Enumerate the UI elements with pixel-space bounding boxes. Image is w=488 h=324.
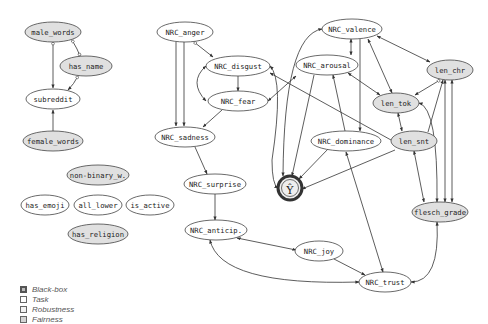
svg-text:has_emoji: has_emoji [26,201,65,210]
node-has-name[interactable]: has_name [60,56,112,76]
node-all-lower[interactable]: all_lower [74,195,122,215]
node-nrc-surprise[interactable]: NRC_surprise [184,174,246,194]
nodes: male_words has_name subreddit female_wor… [21,19,473,292]
svg-text:is_active: is_active [131,201,170,210]
svg-text:NRC_dominance: NRC_dominance [318,137,374,146]
node-y-hat-blackbox[interactable]: Ŷ [278,176,302,200]
node-has-religion[interactable]: has_religion [68,224,128,244]
svg-text:NRC_anticip.: NRC_anticip. [190,226,242,235]
svg-text:len_tok: len_tok [381,99,412,108]
node-subreddit[interactable]: subreddit [26,89,80,109]
node-nrc-fear[interactable]: NRC_fear [208,91,268,111]
node-len-tok[interactable]: len_tok [373,93,419,113]
node-female-words[interactable]: female_words [23,131,83,151]
node-is-active[interactable]: is_active [126,195,174,215]
svg-text:has_name: has_name [69,62,104,71]
legend-item-task: Task [20,294,74,304]
svg-text:len_snt: len_snt [399,137,429,146]
black-box-swatch-icon [20,286,27,293]
node-has-emoji[interactable]: has_emoji [21,195,69,215]
svg-text:NRC_arousal: NRC_arousal [303,61,351,70]
svg-text:len_chr: len_chr [435,66,466,75]
node-nrc-valence[interactable]: NRC_valence [322,19,382,39]
node-non-binary-words[interactable]: non-binary_w. [67,165,129,185]
node-flesch-grade[interactable]: flesch_grade [412,202,468,222]
node-len-snt[interactable]: len_snt [391,131,437,151]
robustness-swatch-icon [20,306,27,313]
svg-text:all_lower: all_lower [79,201,119,210]
svg-text:NRC_disgust: NRC_disgust [214,62,262,71]
svg-text:non-binary_w.: non-binary_w. [70,171,126,180]
svg-text:female_words: female_words [27,137,79,146]
svg-text:NRC_valence: NRC_valence [328,25,376,34]
node-len-chr[interactable]: len_chr [427,60,473,80]
node-nrc-anticipation[interactable]: NRC_anticip. [185,220,247,240]
svg-text:subreddit: subreddit [34,95,73,104]
svg-text:NRC_fear: NRC_fear [221,97,256,106]
svg-text:NRC_trust: NRC_trust [366,278,405,287]
svg-text:NRC_anger: NRC_anger [166,28,206,37]
svg-text:NRC_sadness: NRC_sadness [161,133,209,142]
svg-text:NRC_surprise: NRC_surprise [189,180,241,189]
legend: Black-box Task Robustness Fairness [20,284,74,324]
node-nrc-disgust[interactable]: NRC_disgust [206,56,270,76]
svg-text:flesch_grade: flesch_grade [414,208,466,217]
svg-text:Ŷ: Ŷ [285,183,294,197]
fairness-swatch-icon [20,316,27,323]
legend-item-fairness: Fairness [20,314,74,324]
legend-item-robustness: Robustness [20,304,74,314]
node-male-words[interactable]: male_words [25,22,81,42]
svg-text:has_religion: has_religion [72,230,124,239]
node-nrc-sadness[interactable]: NRC_sadness [155,127,215,147]
node-nrc-anger[interactable]: NRC_anger [157,22,213,42]
node-nrc-trust[interactable]: NRC_trust [359,272,411,292]
svg-text:NRC_joy: NRC_joy [304,247,335,256]
task-swatch-icon [20,296,27,303]
legend-item-black-box: Black-box [20,284,74,294]
node-nrc-arousal[interactable]: NRC_arousal [296,55,358,75]
svg-text:male_words: male_words [31,28,74,37]
node-nrc-dominance[interactable]: NRC_dominance [311,131,381,151]
node-nrc-joy[interactable]: NRC_joy [295,241,343,261]
